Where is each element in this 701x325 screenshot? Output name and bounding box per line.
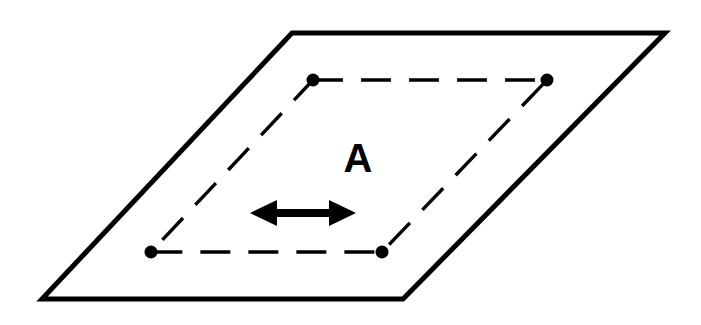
- vertex-dot-top-left: [307, 74, 320, 87]
- vertex-dot-bottom-right: [376, 246, 389, 259]
- figure-canvas: A: [0, 0, 701, 325]
- area-label-a: A: [344, 136, 373, 180]
- plane-diagram-svg: A: [0, 0, 701, 325]
- vertex-dot-top-right: [541, 74, 554, 87]
- vertex-dot-bottom-left: [145, 246, 158, 259]
